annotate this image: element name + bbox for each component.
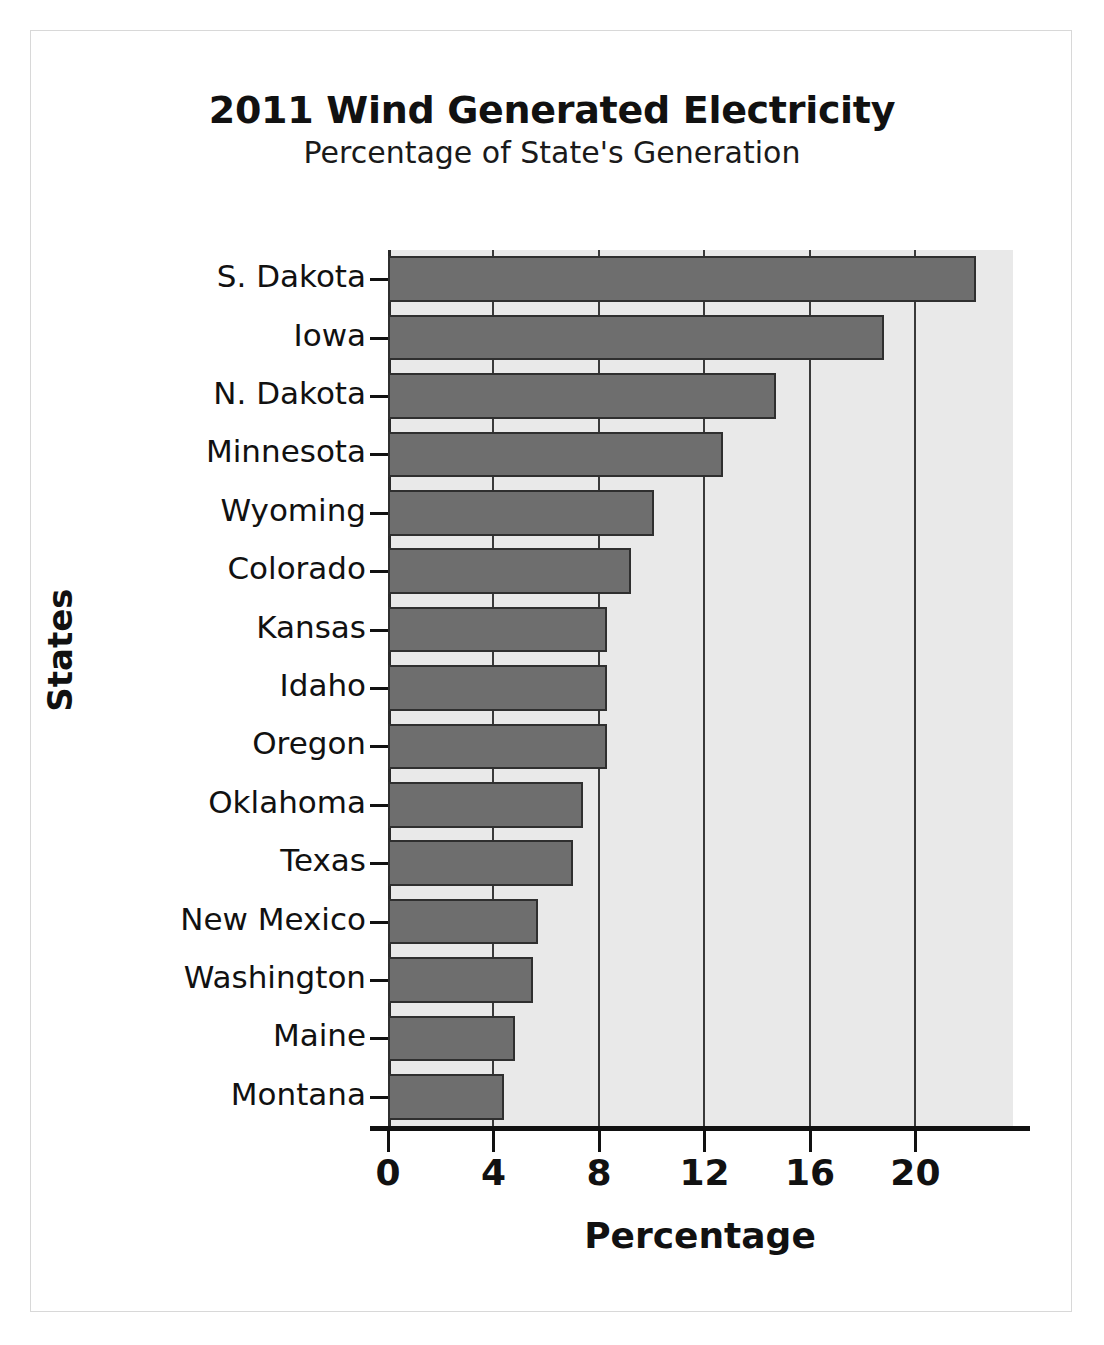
plot-area (388, 250, 1013, 1126)
bars-layer (388, 250, 1013, 1126)
bar (388, 548, 631, 594)
y-tick (370, 570, 388, 573)
bar (388, 432, 723, 478)
y-tick-label: Oregon (66, 725, 366, 761)
y-tick-label: New Mexico (66, 901, 366, 937)
chart-figure: 2011 Wind Generated Electricity Percenta… (30, 30, 1074, 1314)
chart-title: 2011 Wind Generated Electricity (30, 88, 1074, 132)
x-tick-label: 8 (559, 1152, 639, 1193)
y-tick-label: Wyoming (66, 492, 366, 528)
y-tick (370, 921, 388, 924)
y-tick-label: Kansas (66, 609, 366, 645)
y-tick-label: Montana (66, 1076, 366, 1112)
y-tick (370, 745, 388, 748)
y-tick (370, 687, 388, 690)
y-tick (370, 862, 388, 865)
x-tick (598, 1131, 601, 1152)
x-tick (387, 1131, 390, 1152)
x-axis-line (370, 1126, 1030, 1131)
y-tick-label: S. Dakota (66, 258, 366, 294)
bar (388, 607, 607, 653)
bar (388, 782, 583, 828)
y-tick (370, 1037, 388, 1040)
y-tick (370, 1096, 388, 1099)
y-tick (370, 512, 388, 515)
y-tick (370, 979, 388, 982)
bar (388, 490, 654, 536)
y-tick (370, 453, 388, 456)
x-tick (914, 1131, 917, 1152)
y-tick-label: Minnesota (66, 433, 366, 469)
bar (388, 665, 607, 711)
bar (388, 315, 884, 361)
bar (388, 373, 776, 419)
y-tick-label: Idaho (66, 667, 366, 703)
bar (388, 724, 607, 770)
x-tick-label: 4 (453, 1152, 533, 1193)
y-tick-label: Oklahoma (66, 784, 366, 820)
x-tick-label: 0 (348, 1152, 428, 1193)
y-tick (370, 395, 388, 398)
x-tick-label: 16 (770, 1152, 850, 1193)
y-tick (370, 629, 388, 632)
y-tick-label: Texas (66, 842, 366, 878)
x-axis-label: Percentage (370, 1215, 1030, 1256)
y-axis-label: States (40, 470, 80, 830)
y-tick (370, 337, 388, 340)
bar (388, 840, 573, 886)
bar (388, 256, 976, 302)
x-tick-label: 20 (875, 1152, 955, 1193)
x-tick (809, 1131, 812, 1152)
y-tick-label: Maine (66, 1017, 366, 1053)
bar (388, 1074, 504, 1120)
y-tick (370, 804, 388, 807)
y-tick-label: N. Dakota (66, 375, 366, 411)
bar (388, 899, 538, 945)
chart-subtitle: Percentage of State's Generation (30, 135, 1074, 170)
y-tick-label: Colorado (66, 550, 366, 586)
y-tick-label: Iowa (66, 317, 366, 353)
cutoff-header-text (0, 0, 1104, 14)
page-root: 2011 Wind Generated Electricity Percenta… (0, 0, 1104, 1345)
x-tick-label: 12 (664, 1152, 744, 1193)
x-tick (703, 1131, 706, 1152)
x-tick (492, 1131, 495, 1152)
y-tick (370, 278, 388, 281)
bar (388, 957, 533, 1003)
bar (388, 1016, 515, 1062)
y-tick-label: Washington (66, 959, 366, 995)
